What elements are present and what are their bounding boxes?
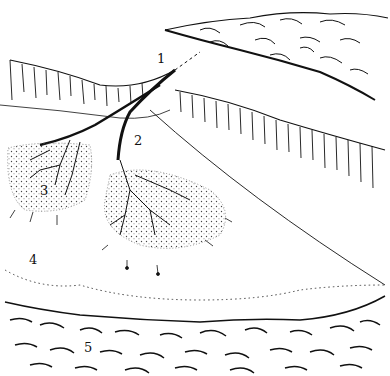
mountain-range (165, 13, 388, 100)
label-1: 1 (157, 52, 165, 65)
foreground-terrain (5, 296, 385, 373)
fan-left (8, 143, 92, 211)
label-5: 5 (84, 341, 92, 354)
diagram-canvas (0, 0, 390, 376)
label-3: 3 (40, 184, 48, 197)
escarpment-left (0, 60, 175, 118)
fan-center (104, 170, 225, 248)
label-2: 2 (134, 134, 142, 147)
fan-outer-outline (5, 270, 385, 300)
label-4: 4 (29, 253, 37, 266)
